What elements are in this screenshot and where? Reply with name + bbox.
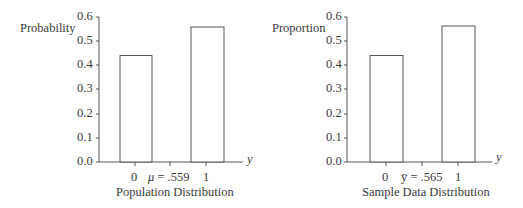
ytick-0.6: 0.6 xyxy=(326,9,342,24)
bar-1 xyxy=(442,26,475,162)
category-1-label: 1 xyxy=(455,170,461,185)
ytick-0.4: 0.4 xyxy=(326,57,342,72)
category-0-label: 0 xyxy=(131,170,137,185)
ytick-0.1: 0.1 xyxy=(77,130,93,145)
bar-1 xyxy=(191,27,224,162)
ytick-0.0: 0.0 xyxy=(77,154,93,169)
ytick-0.2: 0.2 xyxy=(77,106,93,121)
ytick-0.1: 0.1 xyxy=(326,130,342,145)
ytick-0.3: 0.3 xyxy=(326,81,342,96)
ytick-0.2: 0.2 xyxy=(326,106,342,121)
x-axis-variable: y xyxy=(496,150,502,165)
y-axis-label: Probability xyxy=(20,21,76,36)
ytick-0.6: 0.6 xyxy=(77,9,93,24)
ytick-0.5: 0.5 xyxy=(326,33,342,48)
mean-annotation: μ = .559 xyxy=(148,170,189,185)
mean-annotation: ȳ = .565 xyxy=(401,170,442,185)
bar-0 xyxy=(370,56,403,163)
population-distribution-chart: 0.6 0.5 0.4 0.3 0.2 0.1 0.0 Probability … xyxy=(0,0,260,208)
ytick-0.4: 0.4 xyxy=(77,57,93,72)
category-1-label: 1 xyxy=(203,170,209,185)
mean-symbol: ȳ xyxy=(401,170,407,184)
mean-value: = .559 xyxy=(157,170,189,184)
x-axis-variable: y xyxy=(247,152,253,167)
ytick-0.5: 0.5 xyxy=(77,33,93,48)
sample-data-distribution-chart: 0.6 0.5 0.4 0.3 0.2 0.1 0.0 Proportion y… xyxy=(260,0,523,208)
chart-title: Sample Data Distribution xyxy=(362,185,490,200)
chart-title: Population Distribution xyxy=(116,185,234,200)
mean-symbol: μ xyxy=(148,170,154,184)
ytick-0.0: 0.0 xyxy=(326,154,342,169)
bar-0 xyxy=(120,56,152,163)
mean-value: = .565 xyxy=(410,170,442,184)
ytick-0.3: 0.3 xyxy=(77,81,93,96)
y-axis-label: Proportion xyxy=(272,21,325,36)
category-0-label: 0 xyxy=(382,170,388,185)
